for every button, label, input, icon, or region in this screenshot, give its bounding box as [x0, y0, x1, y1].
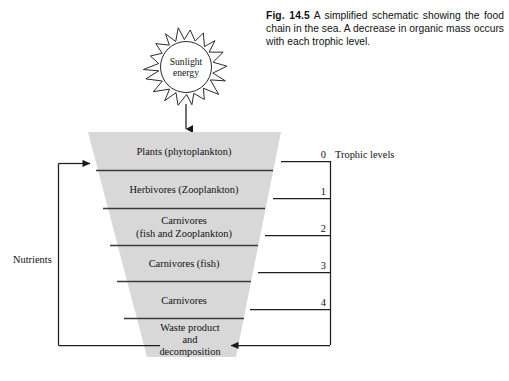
- sunlight-energy-symbol: Sunlight energy: [143, 28, 227, 129]
- funnel-band-4: Carnivores: [161, 295, 207, 306]
- funnel-band-label: Waste product: [160, 322, 220, 333]
- funnel-band-label-3: decomposition: [159, 346, 221, 357]
- funnel-band-label-2: (fish and Zooplankton): [136, 228, 232, 240]
- nutrients-label: Nutrients: [13, 254, 52, 265]
- funnel-band-3: Carnivores (fish): [149, 258, 220, 270]
- trophic-level-number-1: 1: [321, 186, 326, 197]
- trophic-funnel: Plants (phytoplankton) Herbivores (Zoopl…: [88, 132, 281, 357]
- sun-label-line1: Sunlight: [170, 56, 203, 67]
- trophic-level-number-3: 3: [321, 260, 326, 271]
- funnel-band-label: Herbivores (Zooplankton): [130, 184, 239, 196]
- funnel-band-0: Plants (phytoplankton): [137, 146, 232, 158]
- trophic-level-number-2: 2: [321, 223, 326, 234]
- funnel-band-label: Carnivores: [161, 295, 207, 306]
- trophic-level-number-4: 4: [321, 297, 327, 308]
- sun-label-line2: energy: [173, 67, 199, 78]
- funnel-band-label: Carnivores (fish): [149, 258, 220, 270]
- figure-page: Fig. 14.5 A simplified schematic showing…: [0, 0, 509, 381]
- trophic-levels-title: Trophic levels: [335, 149, 394, 160]
- funnel-band-label-2: and: [182, 334, 198, 345]
- funnel-band-label: Carnivores: [161, 215, 207, 226]
- funnel-band-1: Herbivores (Zooplankton): [130, 184, 239, 196]
- funnel-band-label: Plants (phytoplankton): [137, 146, 232, 158]
- trophic-level-number-0: 0: [321, 149, 326, 160]
- food-chain-diagram: Sunlight energy Plants (phytoplankton) H…: [0, 0, 509, 381]
